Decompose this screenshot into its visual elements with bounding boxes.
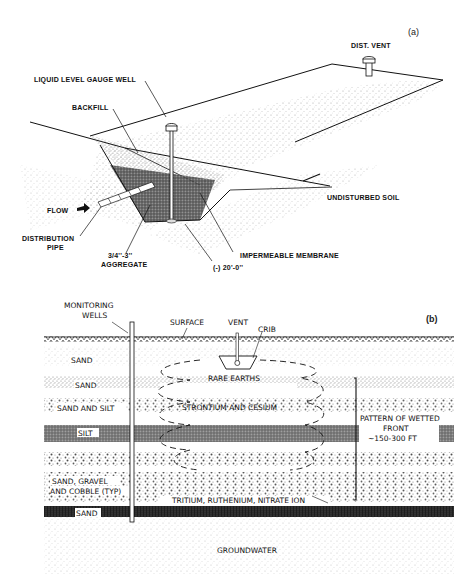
label-monitoring-wells-1: MONITORING — [64, 301, 114, 310]
stratum-sand-dark — [44, 506, 454, 517]
crib-diagram: (a) DIST. VENT LIQUID LEVEL GAUGE WELL B… — [0, 0, 470, 574]
label-liquid-level-gauge-well: LIQUID LEVEL GAUGE WELL — [34, 76, 137, 84]
stratum-label: SAND, GRAVEL — [52, 477, 108, 486]
label-distribution-pipe-2: PIPE — [47, 244, 64, 251]
label-wetted-front-2: FRONT — [383, 424, 409, 433]
label-vent: VENT — [228, 318, 248, 327]
label-crib: CRIB — [258, 325, 276, 334]
label-tritium: TRITIUM, RUTHENIUM, NITRATE ION — [171, 496, 305, 505]
label-dist-vent: DIST. VENT — [351, 42, 391, 49]
label-wetted-front-3: ~150-300 FT — [368, 434, 417, 443]
monitoring-well — [130, 322, 134, 522]
label-surface: SURFACE — [170, 318, 204, 327]
label-depth: (-) 20'-0'' — [213, 264, 243, 272]
panel-b-tag: (b) — [426, 314, 438, 324]
dist-vent — [363, 57, 375, 77]
stratum-label: SILT — [78, 429, 93, 438]
label-strontium-cesium: STRONTIUM AND CESIUM — [182, 403, 277, 412]
label-undisturbed-soil: UNDISTURBED SOIL — [327, 194, 400, 201]
label-flow: FLOW — [47, 207, 69, 214]
stratum-unlabeled — [44, 452, 454, 466]
label-monitoring-wells-2: WELLS — [82, 311, 108, 320]
stratum-label: SAND AND SILT — [57, 404, 115, 413]
label-groundwater: GROUNDWATER — [217, 546, 277, 555]
stratum-label: SAND — [71, 356, 93, 365]
label-aggregate-1: 3/4''-3'' — [108, 252, 133, 259]
label-distribution-pipe-1: DISTRIBUTION — [22, 235, 74, 242]
stratum-label: SAND — [76, 509, 98, 518]
panel-a-tag: (a) — [408, 27, 419, 37]
label-backfill: BACKFILL — [72, 104, 109, 111]
panel-b: (b) MONITORING WELLS SURFACE VENT CRIB R… — [44, 301, 454, 574]
label-impermeable-membrane: IMPERMEABLE MEMBRANE — [240, 252, 339, 259]
label-rare-earths: RARE EARTHS — [208, 374, 260, 383]
label-wetted-front-1: PATTERN OF WETTED — [360, 414, 440, 423]
stratum-label: AND COBBLE (TYP) — [50, 487, 121, 496]
panel-a: (a) DIST. VENT LIQUID LEVEL GAUGE WELL B… — [20, 27, 443, 272]
label-aggregate-2: AGGREGATE — [101, 261, 148, 268]
stratum-label: SAND — [75, 381, 97, 390]
